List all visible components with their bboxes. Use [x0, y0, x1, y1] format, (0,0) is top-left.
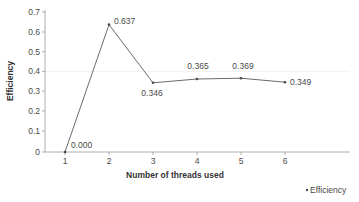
y-tick-label-0-4: 0.4 — [28, 66, 40, 76]
data-point-6 — [284, 81, 287, 84]
y-axis-title: Efficiency — [5, 61, 15, 101]
x-tick-label-4: 4 — [195, 156, 200, 166]
x-tick-label-6: 6 — [283, 156, 288, 166]
efficiency-line-chart: 0.7 0.6 0.5 0.4 0.3 0.2 0.1 0 1 2 3 4 5 … — [0, 0, 359, 202]
y-tick-label-0-5: 0.5 — [28, 47, 40, 57]
y-tick-label-0-7: 0.7 — [28, 7, 40, 17]
y-tick-label-0-3: 0.3 — [28, 86, 40, 96]
y-tick-label-0-2: 0.2 — [28, 106, 40, 116]
x-tick-label-1: 1 — [63, 156, 68, 166]
chart-legend[interactable]: Efficiency — [306, 185, 347, 195]
data-label-1: 0.000 — [71, 140, 93, 150]
data-point-3 — [152, 82, 155, 85]
y-tick-label-0: 0 — [35, 147, 40, 157]
data-point-4 — [196, 78, 199, 81]
x-axis-title: Number of threads used — [126, 170, 224, 180]
data-point-2 — [108, 23, 111, 26]
y-tick-label-0-6: 0.6 — [28, 27, 40, 37]
legend-marker-icon — [306, 189, 308, 191]
data-label-2: 0.637 — [114, 16, 136, 26]
x-tick-label-3: 3 — [151, 156, 156, 166]
x-tick-label-2: 2 — [107, 156, 112, 166]
y-tick-label-0-1: 0.1 — [28, 126, 40, 136]
data-label-5: 0.369 — [232, 61, 254, 71]
legend-label-efficiency: Efficiency — [310, 185, 347, 195]
data-point-5 — [240, 77, 243, 80]
chart-canvas: 0.7 0.6 0.5 0.4 0.3 0.2 0.1 0 1 2 3 4 5 … — [0, 0, 359, 202]
data-label-3: 0.346 — [141, 88, 163, 98]
x-tick-label-5: 5 — [239, 156, 244, 166]
data-label-4: 0.365 — [187, 61, 209, 71]
data-label-6: 0.349 — [290, 77, 312, 87]
data-point-1 — [64, 151, 67, 154]
